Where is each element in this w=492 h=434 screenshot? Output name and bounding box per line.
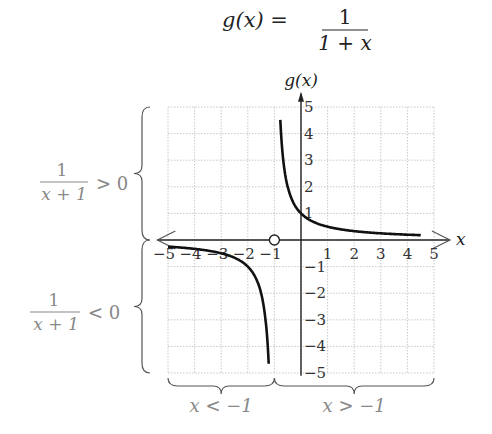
brace-negative xyxy=(134,240,150,373)
y-tick-label: 2 xyxy=(304,178,314,196)
neg-numerator: 1 xyxy=(49,290,60,310)
title-numerator: 1 xyxy=(339,5,352,29)
y-tick-label: −5 xyxy=(304,364,326,382)
y-tick-label: −3 xyxy=(304,311,326,329)
y-tick-label: −4 xyxy=(304,337,326,355)
x-tick-label: −1 xyxy=(259,245,281,263)
title-denominator: 1 + x xyxy=(318,31,371,55)
left-region-label: x < −1 xyxy=(190,395,253,416)
right-region-label: x > −1 xyxy=(323,395,386,416)
brace-right-region xyxy=(274,378,434,394)
chart-svg: 11 + xg(x)x−5−4−3−2−11234554321−1−2−3−4−… xyxy=(0,0,492,434)
brace-positive xyxy=(134,107,150,240)
brace-left-region xyxy=(168,378,274,394)
y-tick-label: 3 xyxy=(304,151,314,169)
neg-denominator: x + 1 xyxy=(33,314,78,334)
pos-numerator: 1 xyxy=(57,160,68,180)
y-tick-label: 5 xyxy=(304,98,314,116)
y-tick-label: −2 xyxy=(304,284,326,302)
x-tick-label: 2 xyxy=(349,245,359,263)
x-tick-label: 4 xyxy=(403,245,413,263)
x-tick-label: −2 xyxy=(233,245,255,263)
x-axis-label: x xyxy=(456,229,466,249)
open-circle-hole xyxy=(269,235,279,245)
x-tick-label: 3 xyxy=(376,245,386,263)
pos-denominator: x + 1 xyxy=(41,184,86,204)
y-axis-label: g(x) xyxy=(284,70,318,90)
x-tick-label: 5 xyxy=(429,245,439,263)
neg-relation: < 0 xyxy=(88,302,120,323)
y-tick-label: −1 xyxy=(304,258,326,276)
y-tick-label: 4 xyxy=(304,125,314,143)
pos-relation: > 0 xyxy=(96,173,128,194)
